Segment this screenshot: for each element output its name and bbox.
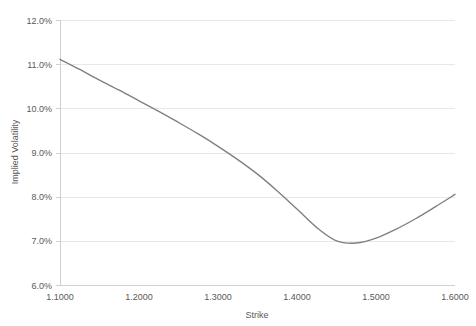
x-tick-labels-group: 1.10001.20001.30001.40001.50001.6000 [46,292,469,302]
y-tick-label: 9.0% [31,148,52,158]
x-tick-label: 1.1000 [46,292,74,302]
x-tick-label: 1.6000 [441,292,469,302]
y-tick-marks-group [56,21,60,286]
axis-lines-group [60,20,455,286]
y-tick-labels-group: 6.0%7.0%8.0%9.0%10.0%11.0%12.0% [26,16,52,291]
gridlines-group [60,21,455,286]
series-line-implied-volatility [60,59,455,243]
y-tick-label: 12.0% [26,16,52,26]
y-tick-label: 10.0% [26,104,52,114]
x-axis-title: Strike [245,310,268,320]
x-tick-label: 1.5000 [362,292,390,302]
implied-volatility-chart: 6.0%7.0%8.0%9.0%10.0%11.0%12.0% 1.10001.… [0,0,476,326]
y-tick-label: 11.0% [27,60,52,70]
x-tick-label: 1.3000 [204,292,232,302]
y-axis-title: Implied Volatility [10,119,20,184]
x-tick-label: 1.4000 [283,292,311,302]
series-group [60,59,455,243]
y-tick-label: 6.0% [31,281,52,291]
chart-canvas: 6.0%7.0%8.0%9.0%10.0%11.0%12.0% 1.10001.… [0,0,476,326]
y-tick-label: 7.0% [31,236,52,246]
x-tick-label: 1.2000 [125,292,153,302]
y-tick-label: 8.0% [31,192,52,202]
